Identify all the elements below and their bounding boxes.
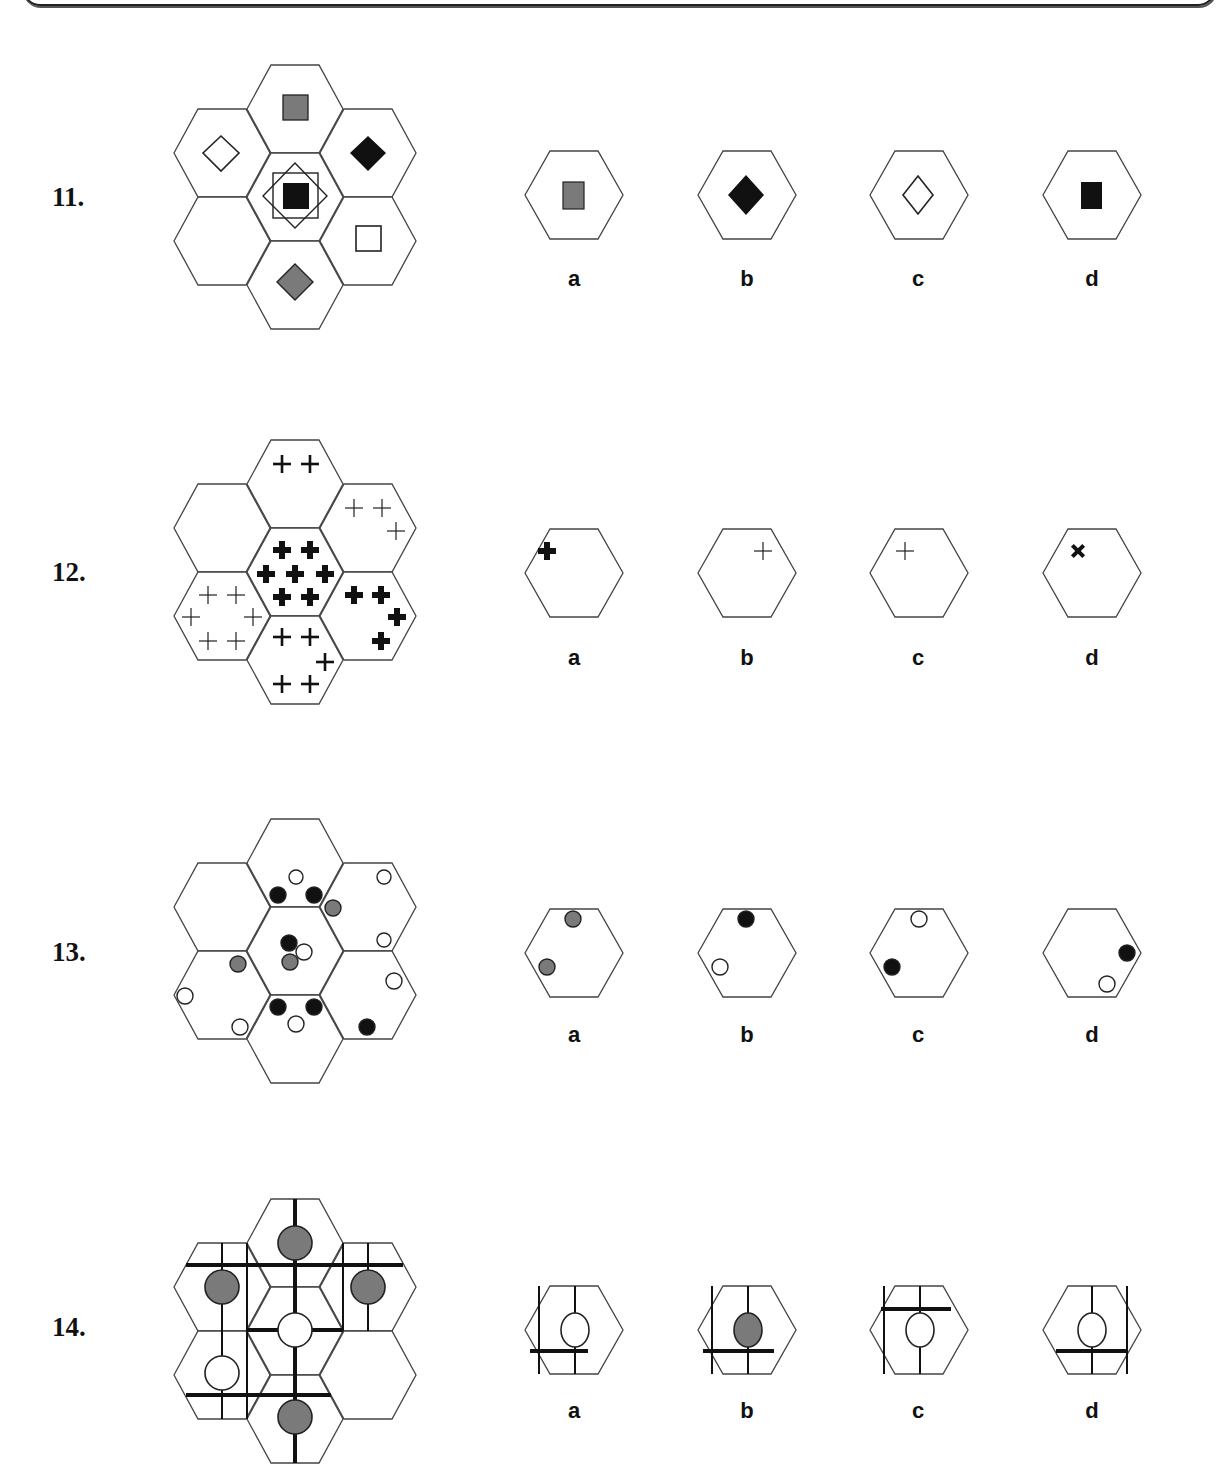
options-11	[525, 151, 1141, 239]
options-14	[525, 1286, 1141, 1374]
puzzle-figures	[0, 0, 1218, 1480]
grid-11	[174, 65, 416, 329]
grid-13	[174, 819, 416, 1083]
grid-14	[174, 1199, 416, 1463]
grid-12	[174, 440, 416, 704]
options-13	[525, 909, 1141, 997]
options-12	[525, 529, 1141, 617]
